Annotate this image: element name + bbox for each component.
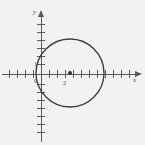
circle-center-dot xyxy=(68,71,72,75)
y-tick-label-1: 1 xyxy=(34,60,37,67)
origin-label: 0 xyxy=(34,77,37,84)
x-axis-label: x xyxy=(132,76,137,84)
y-axis-label: y xyxy=(32,8,37,16)
figure-canvas: x y 0 1 2 xyxy=(0,0,145,145)
y-axis-arrow-icon xyxy=(38,10,44,17)
coordinate-plane-svg: x y 0 1 2 xyxy=(0,0,145,145)
y-axis xyxy=(37,10,45,142)
x-axis xyxy=(2,70,142,78)
x-tick-label-2: 2 xyxy=(63,79,66,86)
